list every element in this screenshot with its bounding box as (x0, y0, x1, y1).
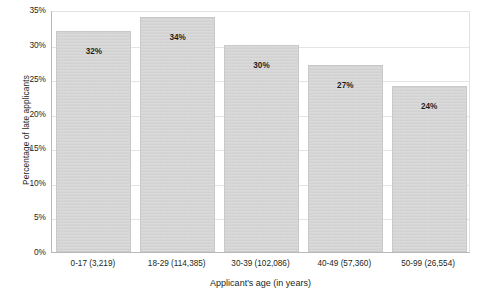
bar-column[interactable]: 34% (140, 17, 215, 252)
bar-column[interactable]: 27% (308, 65, 383, 252)
bar-column[interactable]: 32% (56, 31, 131, 252)
x-axis-tick-label: 18-29 (114,385) (135, 259, 219, 268)
bar-value-label: 32% (56, 47, 131, 56)
bar[interactable] (224, 45, 299, 252)
bar-value-label: 30% (224, 61, 299, 70)
bar-column[interactable]: 24% (392, 86, 467, 252)
x-axis-tick-label: 40-49 (57,360) (302, 259, 386, 268)
bar[interactable] (140, 17, 215, 252)
bar-chart: Percentage of late applicants 0%5%10%15%… (0, 0, 481, 298)
bar-value-label: 27% (308, 81, 383, 90)
x-axis-tick-label: 50-99 (26,554) (386, 259, 470, 268)
x-axis-tick-label: 30-39 (102,086) (219, 259, 303, 268)
y-axis-title: Percentage of late applicants (21, 20, 31, 240)
bar-series: 32%34%30%27%24% (52, 12, 469, 252)
bar-column[interactable]: 30% (224, 45, 299, 252)
x-axis-tick-label: 0-17 (3,219) (51, 259, 135, 268)
plot-area: 32%34%30%27%24% (51, 11, 470, 253)
bar[interactable] (308, 65, 383, 252)
bar[interactable] (56, 31, 131, 252)
bar-value-label: 24% (392, 102, 467, 111)
bar-value-label: 34% (140, 33, 215, 42)
x-axis-title: Applicant's age (in years) (51, 278, 470, 288)
